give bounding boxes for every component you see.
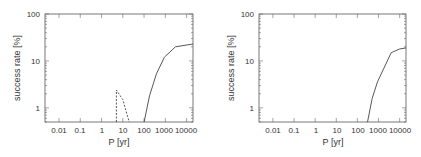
solid-line-series [368, 48, 407, 122]
x-tick-1000: 1000 [155, 126, 173, 135]
x-tick-100: 100 [137, 126, 151, 135]
y-tick-100: 100 [27, 10, 41, 19]
y-tick-100: 100 [241, 10, 255, 19]
right-panel: 100 10 1 0.01 0.1 1 10 100 1000 10000 P … [226, 10, 412, 147]
y-tick-labels: 100 10 1 [241, 10, 255, 113]
plot-frame [45, 14, 193, 122]
solid-line-series [144, 44, 193, 122]
y-tick-1: 1 [250, 104, 255, 113]
y-tick-1: 1 [36, 104, 41, 113]
data-series [116, 44, 193, 122]
x-tick-labels: 0.01 0.1 1 10 100 1000 10000 [265, 126, 411, 135]
left-panel: 100 10 1 0.01 0.1 1 10 100 1000 10000 P … [12, 10, 198, 147]
tick-marks [45, 14, 193, 122]
x-tick-1000: 1000 [369, 126, 387, 135]
y-tick-labels: 100 10 1 [27, 10, 41, 113]
data-series [368, 48, 407, 122]
x-tick-10000: 10000 [389, 126, 412, 135]
y-axis-label: success rate [%] [12, 35, 22, 101]
y-tick-10: 10 [245, 57, 254, 66]
x-tick-0.01: 0.01 [51, 126, 67, 135]
x-axis-label: P [yr] [323, 137, 344, 147]
y-tick-10: 10 [31, 57, 40, 66]
chart-figure: 100 10 1 0.01 0.1 1 10 100 1000 10000 P … [0, 0, 421, 157]
x-tick-labels: 0.01 0.1 1 10 100 1000 10000 [51, 126, 197, 135]
x-tick-100: 100 [351, 126, 365, 135]
x-tick-1: 1 [100, 126, 105, 135]
x-tick-0.1: 0.1 [74, 126, 86, 135]
x-tick-0.1: 0.1 [288, 126, 300, 135]
x-axis-label: P [yr] [109, 137, 130, 147]
x-tick-1: 1 [314, 126, 319, 135]
y-axis-label: success rate [%] [226, 35, 236, 101]
x-tick-10: 10 [119, 126, 128, 135]
dashed-line-series [116, 90, 129, 122]
x-tick-10: 10 [333, 126, 342, 135]
x-tick-0.01: 0.01 [265, 126, 281, 135]
x-tick-10000: 10000 [175, 126, 198, 135]
